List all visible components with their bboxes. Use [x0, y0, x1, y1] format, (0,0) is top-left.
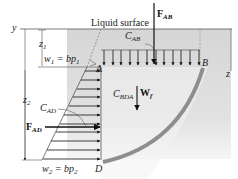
point-b-label: B [202, 57, 208, 68]
z-axis-label: z [225, 68, 230, 79]
w2-label: w2 = bp2 [42, 163, 78, 176]
z2-label: z2 [22, 94, 31, 107]
fad-label: FAD [26, 121, 42, 134]
fluid-pressure-diagram: y z Liquid surface FAB CAB z1 w1 = bp1 A… [0, 0, 238, 179]
point-d-label: D [94, 163, 103, 174]
point-a-label: A [95, 63, 103, 74]
liquid-surface-label: Liquid surface [91, 17, 150, 28]
cad-label: CAD [40, 102, 56, 115]
z1-label: z1 [38, 38, 46, 51]
y-axis-label: y [11, 22, 17, 33]
fab-label: FAB [157, 8, 173, 21]
diagram-svg: y z Liquid surface FAB CAB z1 w1 = bp1 A… [0, 0, 238, 179]
